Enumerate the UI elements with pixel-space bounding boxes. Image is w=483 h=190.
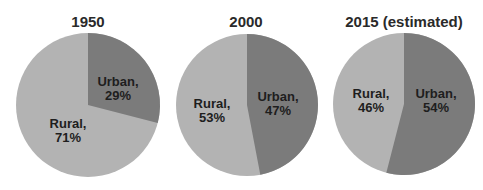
urban-label: Urban, [97,74,138,89]
pie-2000: 2000 Urban, 47% Rural, 53% [176,13,318,176]
rural-value: 46% [358,100,384,115]
rural-value: 71% [55,130,81,145]
pie-2015: 2015 (estimated) Urban, 54% Rural, 46% [333,13,475,175]
pie-1950: 1950 Urban, 29% Rural, 71% [16,13,160,177]
urban-label: Urban, [415,86,456,101]
rural-label: Rural, [353,86,390,101]
chart-title: 1950 [71,13,104,30]
rural-value: 53% [199,110,225,125]
urban-value: 54% [423,100,449,115]
pie-charts: 1950 Urban, 29% Rural, 71% 2000 Urban, 4… [0,0,483,190]
chart-title: 2000 [229,13,262,30]
rural-label: Rural, [50,116,87,131]
urban-label: Urban, [257,89,298,104]
rural-label: Rural, [194,96,231,111]
urban-value: 29% [105,88,131,103]
urban-value: 47% [265,103,291,118]
chart-title: 2015 (estimated) [345,13,463,30]
